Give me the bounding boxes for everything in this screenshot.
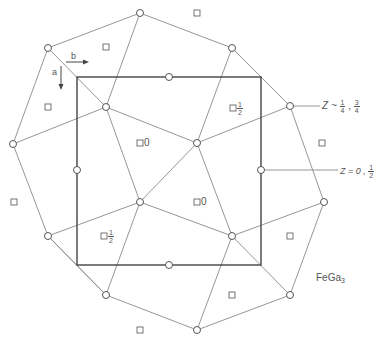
site-label-half-2: 12 (108, 229, 114, 244)
z-label-lower: Z = 0 , 12 (340, 164, 374, 179)
z-label-upper: Z ~ 14 , 34 (322, 99, 360, 114)
site-label-half-1: 12 (237, 101, 243, 116)
axis-b-label: b (71, 52, 76, 61)
bond-network (13, 13, 338, 330)
site-label-zero-1: 0 (144, 138, 150, 148)
structure-diagram (0, 0, 377, 339)
compound-label: FeGa3 (316, 273, 345, 284)
axis-a-label: a (52, 68, 57, 77)
site-label-zero-2: 0 (201, 197, 207, 207)
